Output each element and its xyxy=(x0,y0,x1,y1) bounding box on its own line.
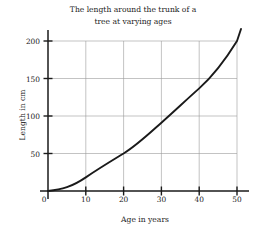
trunk-length-curve xyxy=(48,29,241,191)
x-tick-label-0: 0 xyxy=(42,195,47,204)
y-tick-label-50: 50 xyxy=(31,150,41,159)
y-tick-label-200: 200 xyxy=(26,37,40,46)
x-tick-label-40: 40 xyxy=(194,195,204,204)
chart-container: The length around the trunk of a tree at… xyxy=(0,0,266,234)
x-tick-label-30: 30 xyxy=(157,195,167,204)
x-axis-title: Age in years xyxy=(120,215,169,224)
x-tick-label-50: 50 xyxy=(232,195,242,204)
y-tick-label-150: 150 xyxy=(26,75,40,84)
y-axis-tick-labels: 200 150 100 50 xyxy=(26,37,40,159)
chart-title-line-2: tree at varying ages xyxy=(94,17,171,26)
line-chart: The length around the trunk of a tree at… xyxy=(0,0,266,234)
x-tick-label-20: 20 xyxy=(119,195,129,204)
chart-title-line-1: The length around the trunk of a xyxy=(70,5,197,14)
y-tick-label-100: 100 xyxy=(26,112,40,121)
x-axis-tick-labels: 0 10 20 30 40 50 xyxy=(42,195,242,204)
y-axis-title: Length in cm xyxy=(18,90,27,141)
x-tick-label-10: 10 xyxy=(81,195,91,204)
horizontal-gridlines xyxy=(48,41,237,154)
